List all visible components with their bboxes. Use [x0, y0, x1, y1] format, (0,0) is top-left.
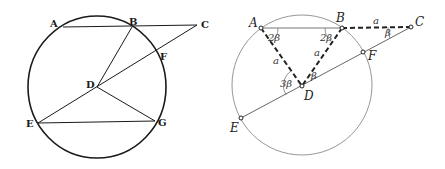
right-point-d	[300, 84, 304, 88]
right-label-f: F	[367, 49, 377, 63]
right-point-b	[340, 26, 344, 30]
angle-label-bcd: β	[384, 27, 391, 38]
right-label-e: E	[229, 121, 239, 135]
left-label-g: G	[158, 117, 167, 128]
left-label-b: B	[129, 16, 137, 27]
right-label-c: C	[415, 15, 424, 29]
angle-label-abd: 2β	[319, 32, 332, 43]
angle-label-ade: 3β	[280, 78, 292, 89]
segment-label-bc: a	[373, 15, 379, 26]
angle-label-bdc: β	[310, 70, 317, 81]
right-point-c	[409, 25, 413, 29]
left-line-ce	[38, 25, 197, 123]
left-label-e: E	[26, 118, 34, 129]
left-label-c: C	[201, 19, 209, 30]
segment-label-bd: a	[314, 47, 320, 58]
left-line-eg	[38, 121, 155, 123]
right-figure: A B C D E F a a a 2β 2β 3β β β	[229, 11, 424, 155]
left-label-a: A	[49, 18, 58, 29]
right-dashed-bc	[342, 27, 411, 28]
left-label-f: F	[160, 51, 167, 62]
right-point-a	[259, 26, 263, 30]
right-label-d: D	[303, 89, 314, 103]
left-line-bd	[97, 27, 132, 87]
right-point-f	[361, 50, 365, 54]
diagram-canvas: A B C D E F G A B C D E F	[0, 0, 445, 169]
right-label-b: B	[335, 11, 345, 25]
segment-label-ad: a	[273, 55, 279, 66]
right-label-a: A	[248, 16, 258, 30]
angle-label-dab: 2β	[267, 32, 280, 43]
left-figure: A B C D E F G	[26, 16, 209, 158]
right-point-e	[239, 116, 243, 120]
left-label-d: D	[86, 79, 95, 90]
left-line-dg	[97, 87, 155, 121]
